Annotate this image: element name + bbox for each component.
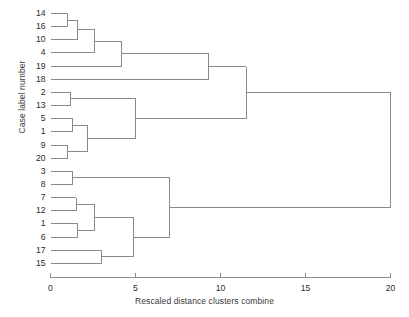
dendrogram-links: [51, 14, 391, 264]
x-tick-label: 20: [377, 284, 405, 293]
leaf-label: 3: [18, 167, 46, 176]
leaf-label: 8: [18, 180, 46, 189]
x-axis-label: Rescaled distance clusters combine: [0, 296, 409, 306]
x-tick-label: 5: [122, 284, 150, 293]
dendrogram-chart: 141610419182135192038712161715 05101520 …: [0, 0, 409, 317]
leaf-label: 17: [18, 246, 46, 255]
x-axis: [51, 273, 391, 278]
x-tick-label: 10: [207, 284, 235, 293]
leaf-label: 7: [18, 193, 46, 202]
leaf-label: 12: [18, 206, 46, 215]
leaf-label: 1: [18, 219, 46, 228]
leaf-label: 6: [18, 233, 46, 242]
dendrogram-plot-svg: [0, 0, 409, 317]
y-axis-label: Case label number: [17, 27, 27, 167]
x-tick-label: 0: [37, 284, 65, 293]
x-tick-label: 15: [292, 284, 320, 293]
leaf-label: 15: [18, 259, 46, 268]
leaf-label: 14: [18, 9, 46, 18]
